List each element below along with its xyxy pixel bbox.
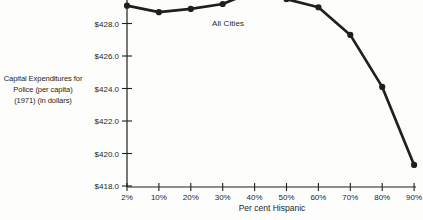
data-point (283, 0, 289, 2)
y-tick-label: $420.0 (95, 150, 120, 159)
x-tick-label: 80% (374, 193, 390, 202)
y-tick-label: $424.0 (95, 85, 120, 94)
x-tick-label: 90% (406, 193, 422, 202)
data-point (315, 4, 321, 10)
x-tick-label: 60% (310, 193, 326, 202)
data-point (347, 32, 353, 38)
x-tick-label: 10% (151, 193, 167, 202)
y-axis-title-line-2: Police (per capita) (0, 84, 86, 95)
x-tick-label: 20% (183, 193, 199, 202)
data-point (156, 9, 162, 15)
data-point (220, 1, 226, 7)
chart-figure: $418.0$420.0$422.0$424.0$426.0$428.02%10… (0, 0, 423, 220)
chart-canvas: $418.0$420.0$422.0$424.0$426.0$428.02%10… (0, 0, 423, 220)
y-tick-label: $428.0 (95, 20, 120, 29)
y-axis-title-line-3: (1971) (in dollars) (0, 95, 86, 106)
y-tick-label: $418.0 (95, 182, 120, 191)
x-tick-label: 30% (215, 193, 231, 202)
x-tick-label: 40% (247, 193, 263, 202)
x-axis-title: Per cent Hispanic (127, 203, 417, 213)
data-point (124, 3, 130, 9)
data-point (411, 162, 417, 168)
y-tick-label: $426.0 (95, 52, 120, 61)
data-line (127, 0, 414, 165)
data-point (379, 84, 385, 90)
y-axis-title-line-1: Capital Expenditures for (0, 73, 86, 84)
y-axis-title: Capital Expenditures for Police (per cap… (0, 73, 86, 106)
series-label: All Cities (212, 19, 244, 28)
x-tick-label: 2% (121, 193, 133, 202)
data-point (188, 6, 194, 12)
x-tick-label: 70% (342, 193, 358, 202)
y-tick-label: $422.0 (95, 117, 120, 126)
x-tick-label: 50% (278, 193, 294, 202)
